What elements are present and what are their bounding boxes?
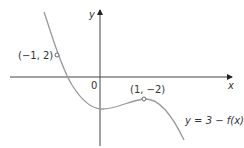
- point-marker: [55, 53, 59, 57]
- point-label: (−1, 2): [18, 50, 53, 61]
- x-axis-label: x: [227, 80, 234, 91]
- point-marker: [142, 97, 146, 101]
- graph: y x 0 (−1, 2) (1, −2) y = 3 − f(x): [0, 0, 244, 148]
- y-axis-label: y: [88, 9, 96, 20]
- curve: [44, 12, 184, 140]
- origin-label: 0: [91, 80, 97, 91]
- point-label: (1, −2): [130, 84, 165, 95]
- curve-label: y = 3 − f(x): [184, 115, 244, 126]
